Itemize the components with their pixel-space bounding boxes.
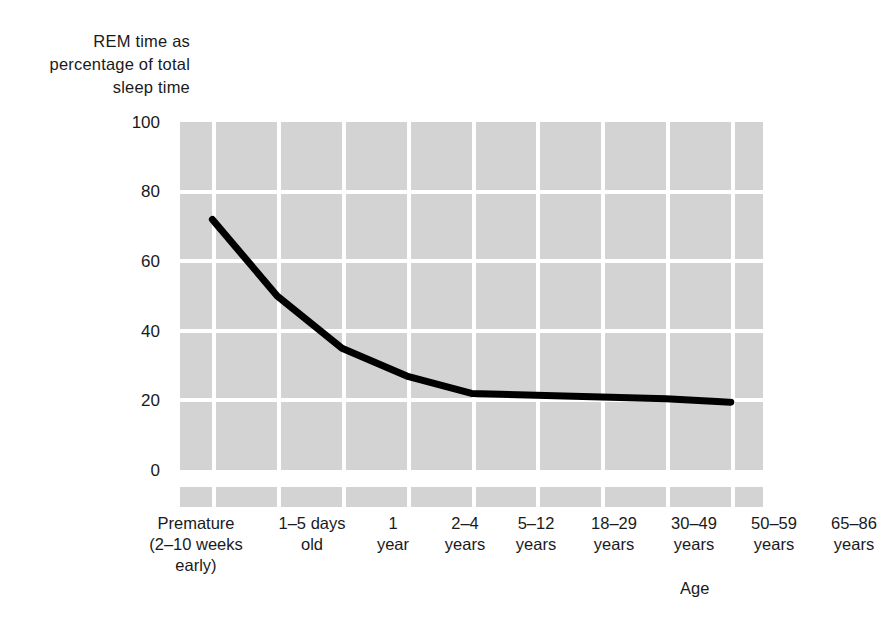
gridline-vertical [601,487,605,507]
data-line-chart [180,122,763,470]
x-axis-title: Age [680,578,770,598]
y-tick-label-0: 0 [0,462,160,479]
gridline-vertical [731,487,735,507]
y-tick-label-40: 40 [0,323,160,340]
x-label-65-86-years: 65–86 years [810,513,881,555]
y-tick-label-20: 20 [0,392,160,409]
gridline-vertical [407,487,411,507]
gridline-vertical [342,487,346,507]
rem-percentage-line [212,219,730,402]
gridline-vertical [212,487,216,507]
plot-area [180,122,763,470]
gridline-vertical [472,487,476,507]
x-label-50-59-years: 50–59 years [730,513,818,555]
y-tick-label-100: 100 [0,114,160,131]
y-tick-label-60: 60 [0,253,160,270]
x-label-1-year: 1 year [354,513,432,555]
x-label-30-49-years: 30–49 years [650,513,738,555]
x-label-2-4-years: 2–4 years [426,513,504,555]
x-label-1-5-days: 1–5 days old [266,513,358,555]
gridline-vertical [277,487,281,507]
x-label-18-29-years: 18–29 years [570,513,658,555]
x-axis-band-strip [180,487,763,507]
x-axis-category-labels: Premature (2–10 weeks early) 1–5 days ol… [120,513,798,583]
gridline-vertical [666,487,670,507]
x-label-5-12-years: 5–12 years [495,513,577,555]
gridline-vertical [536,487,540,507]
y-tick-label-80: 80 [0,183,160,200]
x-label-premature: Premature (2–10 weeks early) [120,513,272,576]
y-axis-title: REM time as percentage of total sleep ti… [0,30,190,99]
